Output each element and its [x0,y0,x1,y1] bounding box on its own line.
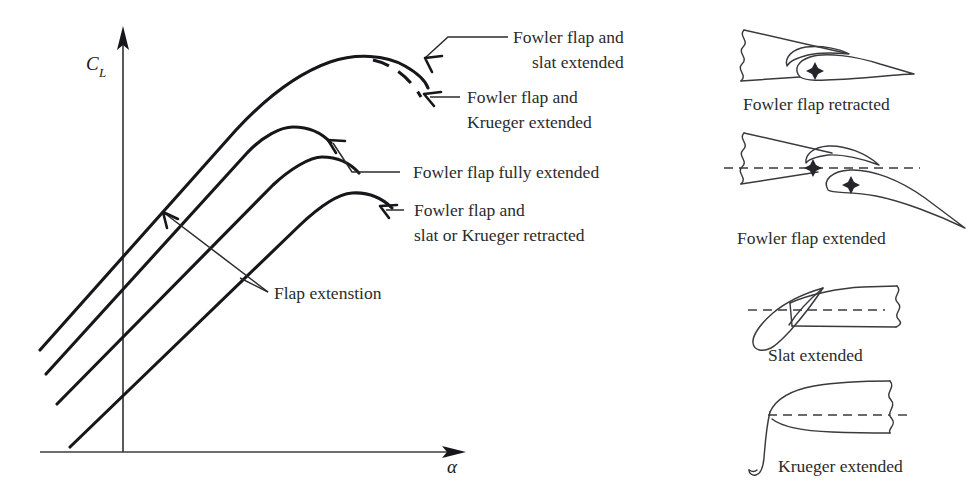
krueger-flap-tip-4 [749,470,757,472]
wing-lower-surface-3 [792,326,896,327]
arrowhead-fowler-retracted [380,205,397,218]
leader-line-fowler-slat [425,37,508,58]
break-line-wavy-3 [896,286,901,327]
label-fowler-retracted-line1: Fowler flap and [414,200,525,220]
lift-curve-figure: C L α Flap extenstion Fowl [0,0,980,492]
arrowhead-fowler-slat [425,56,442,72]
y-axis-label: C [86,53,99,74]
label-fowler-retracted-line2: slat or Krueger retracted [414,225,585,245]
curve-dashed-branch [373,60,421,97]
wing-lower-surface-2 [741,172,818,184]
break-line-wavy-2 [740,133,745,184]
annotation-fowler-slat-leader [425,37,508,72]
curve-fowler-slat [40,56,428,350]
label-fowler-slat-line2: slat extended [532,52,624,72]
curve-fowler-krueger [46,127,331,374]
break-line-wavy-4 [889,381,894,433]
caption-fowler-flap-retracted: Fowler flap retracted [743,94,890,114]
curve-fowler-retracted [70,193,392,447]
annotation-fowler-full-leader [328,140,400,172]
caption-fowler-flap-extended: Fowler flap extended [737,228,886,248]
wing-lower-surface-4 [772,419,890,433]
flap-extension-label: Flap extenstion [274,283,382,303]
airfoil-fowler-flap-retracted [740,30,914,81]
flap-vane-2 [806,146,879,165]
deployed-flap-airfoil-2 [826,170,965,228]
label-fowler-krueger-line1: Fowler flap and [467,87,578,107]
figure-root: C L α Flap extenstion Fowl [0,0,980,492]
annotation-fowler-krueger-leader [424,92,460,106]
wing-upper-surface-2 [744,133,832,153]
caption-slat-extended: Slat extended [768,345,863,365]
label-fowler-full: Fowler flap fully extended [413,162,599,182]
arrowhead-fowler-krueger [424,92,441,106]
leader-line-fowler-full [333,143,400,172]
pivot-star-marker-2b [842,176,860,194]
pivot-star-marker-1 [806,62,824,80]
break-line-wavy-1 [740,30,745,81]
caption-krueger-extended: Krueger extended [778,456,903,476]
flap-extension-leader-tail [240,278,268,292]
lift-curves-group [40,56,428,447]
y-axis-label-subscript: L [98,65,106,80]
axes-group [40,26,466,458]
arrowhead-fowler-full [328,140,345,153]
krueger-flap-element-4 [749,412,770,475]
wing-upper-surface-4 [770,381,890,412]
flap-extension-arrowhead [163,212,178,228]
wing-lower-surface-1 [741,77,800,81]
label-fowler-krueger-line2: Krueger extended [467,112,592,132]
airfoil-fowler-flap-extended [724,133,965,228]
wing-upper-surface-1 [744,30,845,53]
airfoil-slat-extended [748,286,901,350]
x-axis-label: α [447,456,458,477]
flap-vane-1 [786,46,849,66]
label-fowler-slat-line1: Fowler flap and [513,27,624,47]
